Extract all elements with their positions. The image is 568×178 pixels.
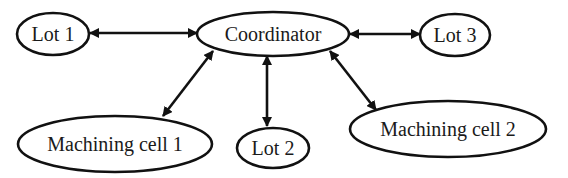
- node-lot-3: Lot 3: [420, 14, 490, 56]
- node-lot-1: Lot 1: [17, 13, 89, 55]
- node-label: Coordinator: [225, 23, 322, 45]
- node-label: Lot 1: [32, 23, 75, 45]
- nodes-layer: Lot 1 Coordinator Lot 3 Machining cell 1…: [17, 12, 546, 172]
- node-lot-2: Lot 2: [237, 128, 309, 168]
- node-label: Machining cell 2: [380, 118, 516, 141]
- node-machining-cell-2: Machining cell 2: [350, 101, 546, 157]
- node-label: Machining cell 1: [47, 133, 183, 156]
- node-coordinator: Coordinator: [197, 12, 349, 56]
- coordinator-diagram: Lot 1 Coordinator Lot 3 Machining cell 1…: [0, 0, 568, 178]
- node-label: Lot 3: [434, 24, 477, 46]
- node-label: Lot 2: [252, 137, 295, 159]
- node-machining-cell-1: Machining cell 1: [18, 116, 212, 172]
- edge-coordinator-machining-cell-1: [163, 51, 213, 116]
- edge-coordinator-machining-cell-2: [330, 51, 376, 110]
